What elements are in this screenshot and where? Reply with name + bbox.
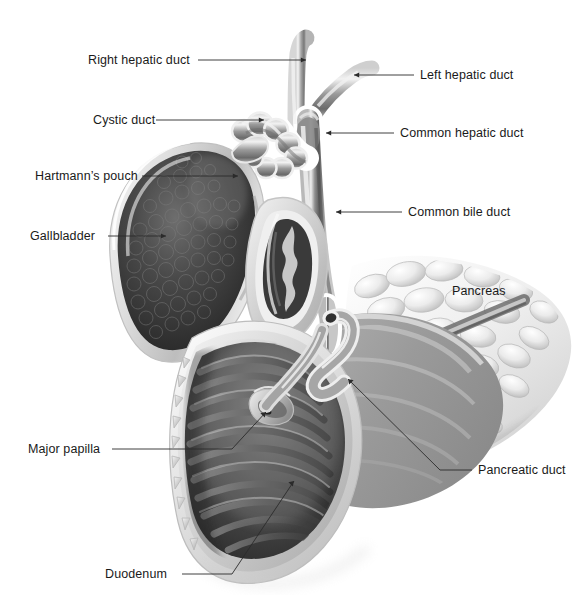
label-gallbladder: Gallbladder <box>30 230 95 243</box>
label-cystic-duct: Cystic duct <box>93 114 155 127</box>
label-left-hepatic-duct: Left hepatic duct <box>420 69 513 82</box>
label-common-hepatic-duct: Common hepatic duct <box>400 127 524 140</box>
label-common-bile-duct: Common bile duct <box>408 206 510 219</box>
anatomy-figure: Right hepatic duct Cystic duct Hartmann’… <box>0 0 584 612</box>
label-pancreatic-duct: Pancreatic duct <box>478 464 566 477</box>
label-major-papilla: Major papilla <box>28 443 100 456</box>
label-duodenum: Duodenum <box>105 568 167 581</box>
anatomy-illustration <box>0 0 584 612</box>
label-right-hepatic-duct: Right hepatic duct <box>88 54 190 67</box>
label-pancreas: Pancreas <box>452 285 506 298</box>
label-hartmanns-pouch: Hartmann’s pouch <box>35 170 138 183</box>
